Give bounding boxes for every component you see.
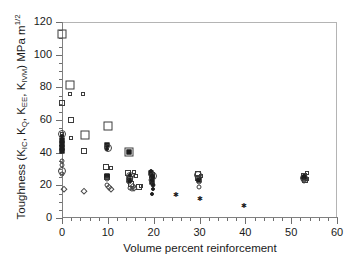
x-tick-minor [264, 218, 265, 221]
data-point-square-open [139, 184, 143, 188]
x-tick-minor [209, 218, 210, 221]
y-tick-minor [59, 177, 62, 178]
data-point-circle-filled [151, 183, 155, 187]
y-tick-minor [59, 47, 62, 48]
x-tick-major [62, 218, 63, 224]
y-tick-minor [59, 71, 62, 72]
y-tick-minor [59, 79, 62, 80]
x-tick-major [108, 218, 109, 224]
x-axis-title: Volume percent reinforcement [62, 242, 338, 254]
data-point-square-open [103, 121, 112, 130]
x-tick-minor [80, 218, 81, 221]
x-tick-major [337, 218, 338, 224]
data-point-star: ✱ [197, 194, 203, 203]
data-point-square-open [58, 30, 67, 39]
data-point-square-open [81, 148, 87, 154]
data-point-circle-filled [60, 134, 64, 138]
y-tick-minor [59, 63, 62, 64]
data-point-circle-open [301, 179, 306, 184]
y-axis-title: Toughness (KIC, KQ, KEE, KIVM) MPa m1/2 [15, 15, 27, 220]
y-tick-minor [59, 96, 62, 97]
x-tick-minor [218, 218, 219, 221]
data-point-circle-filled [128, 173, 132, 177]
x-tick-minor [135, 218, 136, 221]
x-tick-minor [300, 218, 301, 221]
x-tick-label: 50 [276, 227, 306, 238]
y-tick-major [56, 22, 62, 23]
y-tick-major [56, 55, 62, 56]
y-tick-minor [59, 112, 62, 113]
x-tick-minor [227, 218, 228, 221]
x-tick-label: 10 [93, 227, 123, 238]
y-tick-major [56, 120, 62, 121]
x-tick-label: 30 [185, 227, 215, 238]
x-tick-minor [99, 218, 100, 221]
data-point-circle-open [104, 176, 109, 181]
x-tick-label: 60 [322, 227, 352, 238]
x-tick-minor [71, 218, 72, 221]
x-tick-major [245, 218, 246, 224]
data-point-circle-open [60, 171, 65, 176]
x-tick-minor [319, 218, 320, 221]
data-point-square-open [80, 130, 89, 139]
data-point-circle-filled [150, 192, 154, 196]
x-tick-minor [310, 218, 311, 221]
data-point-square-open [81, 92, 85, 96]
x-tick-minor [236, 218, 237, 221]
data-point-square-open [59, 100, 65, 106]
data-point-circle-filled [150, 174, 154, 178]
y-tick-major [56, 185, 62, 186]
data-point-square-open [109, 166, 113, 170]
data-point-circle-filled [302, 174, 306, 178]
data-point-square-open [134, 174, 138, 178]
x-tick-minor [126, 218, 127, 221]
x-tick-minor [172, 218, 173, 221]
data-point-circle-filled [60, 147, 64, 151]
x-tick-major [200, 218, 201, 224]
x-tick-minor [117, 218, 118, 221]
x-tick-label: 0 [47, 227, 77, 238]
data-point-square-open [69, 136, 73, 140]
x-tick-minor [282, 218, 283, 221]
data-point-circle-filled [105, 147, 109, 151]
data-point-circle-open [60, 162, 65, 167]
data-point-square-filled [126, 149, 131, 154]
data-point-circle-filled [60, 139, 64, 143]
data-point-star: ✱ [173, 189, 179, 198]
y-tick-major [56, 87, 62, 88]
chart-figure: 0204060801001200102030405060 ✱✱✱ Volume … [0, 0, 354, 265]
x-tick-major [154, 218, 155, 224]
x-tick-label: 20 [139, 227, 169, 238]
data-point-square-open [68, 92, 72, 96]
data-point-star: ✱ [241, 200, 247, 209]
x-tick-major [291, 218, 292, 224]
x-tick-minor [273, 218, 274, 221]
x-tick-minor [328, 218, 329, 221]
data-point-circle-open [197, 184, 202, 189]
data-point-circle-filled [196, 178, 200, 182]
y-tick-minor [59, 194, 62, 195]
data-point-square-open [66, 80, 75, 89]
y-axis-title-wrapper: Toughness (KIC, KQ, KEE, KIVM) MPa m1/2 [13, 12, 29, 222]
x-tick-minor [181, 218, 182, 221]
x-tick-minor [163, 218, 164, 221]
data-point-square-open [68, 117, 74, 123]
y-tick-minor [59, 202, 62, 203]
y-tick-minor [59, 210, 62, 211]
x-tick-label: 40 [230, 227, 260, 238]
x-tick-minor [190, 218, 191, 221]
x-tick-minor [255, 218, 256, 221]
x-tick-minor [145, 218, 146, 221]
x-tick-minor [90, 218, 91, 221]
